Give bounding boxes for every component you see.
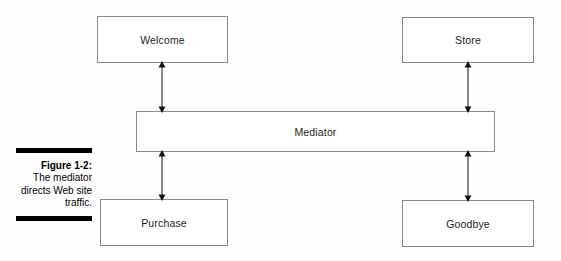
caption-text: Figure 1-2: The mediator directs Web sit…: [12, 160, 92, 210]
node-label-goodbye: Goodbye: [446, 218, 490, 230]
diagram-node-purchase: Purchase: [100, 199, 228, 246]
figure-container: Welcome Store Mediator Purchase Goodbye: [0, 0, 561, 261]
caption-description: The mediator directs Web site traffic.: [12, 172, 92, 209]
connector-welcome-mediator-double-arrow: [153, 61, 171, 113]
connector-mediator-purchase-double-arrow: [153, 150, 171, 201]
node-label-mediator: Mediator: [294, 126, 336, 138]
figure-caption: Figure 1-2: The mediator directs Web sit…: [12, 148, 92, 221]
diagram-node-store: Store: [402, 17, 534, 63]
diagram-node-mediator: Mediator: [136, 111, 495, 152]
diagram-node-goodbye: Goodbye: [402, 200, 534, 247]
node-label-store: Store: [455, 34, 481, 46]
caption-rule-bottom: [16, 216, 92, 221]
connector-store-mediator-double-arrow: [459, 61, 477, 113]
caption-rule-top: [16, 148, 92, 153]
caption-figure-number: Figure 1-2:: [12, 160, 92, 172]
connector-mediator-goodbye-double-arrow: [459, 150, 477, 202]
diagram-node-welcome: Welcome: [97, 16, 228, 63]
node-label-welcome: Welcome: [140, 34, 185, 46]
node-label-purchase: Purchase: [141, 217, 187, 229]
